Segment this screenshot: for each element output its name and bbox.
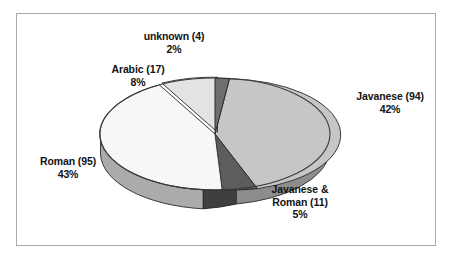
pie-label-roman: Roman (95) 43%: [12, 155, 124, 180]
pie-label-javanese: Javanese (94) 42%: [332, 90, 448, 115]
pie-label-arabic-name: Arabic (17): [72, 63, 204, 76]
pie-label-javanese-roman-percent: 5%: [242, 208, 358, 221]
pie-label-javanese-roman: Javanese & Roman (11) 5%: [242, 183, 358, 221]
pie-label-arabic-percent: 8%: [72, 76, 204, 89]
pie-label-javanese-roman-name-line2: Roman (11): [242, 196, 358, 209]
pie-chart-figure: unknown (4) 2% Arabic (17) 8% Javanese (…: [0, 0, 454, 268]
pie-label-arabic: Arabic (17) 8%: [72, 63, 204, 88]
pie-label-unknown-name: unknown (4): [108, 30, 240, 43]
pie-label-javanese-name: Javanese (94): [332, 90, 448, 103]
pie-label-javanese-percent: 42%: [332, 103, 448, 116]
pie-top-face: [100, 77, 341, 190]
pie-label-unknown-percent: 2%: [108, 43, 240, 56]
pie-label-roman-name: Roman (95): [12, 155, 124, 168]
pie-label-unknown: unknown (4) 2%: [108, 30, 240, 55]
pie-label-javanese-roman-name-line1: Javanese &: [242, 183, 358, 196]
pie-label-roman-percent: 43%: [12, 168, 124, 181]
